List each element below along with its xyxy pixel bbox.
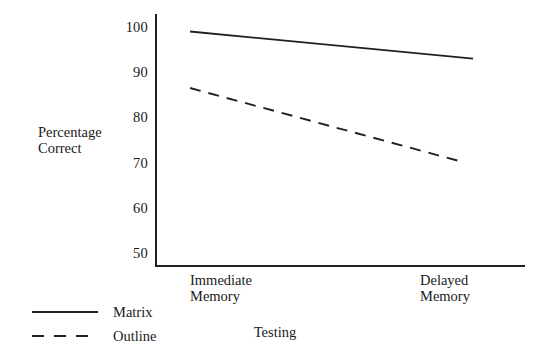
legend-item-outline: Outline xyxy=(30,324,230,348)
legend-item-matrix: Matrix xyxy=(30,300,230,324)
series-line-outline xyxy=(190,88,465,163)
legend-label-outline: Outline xyxy=(113,328,157,344)
chart-figure: 100 90 80 70 60 50 Percentage Correct Im… xyxy=(0,0,550,359)
legend-swatch-dashed-line-icon xyxy=(30,324,100,348)
series-line-matrix xyxy=(190,32,473,59)
legend-swatch-solid-line-icon xyxy=(30,300,100,324)
legend-label-matrix: Matrix xyxy=(113,304,152,320)
chart-legend: Matrix Outline xyxy=(30,300,230,348)
x-category-label-delayed-memory: Delayed Memory xyxy=(420,273,470,304)
